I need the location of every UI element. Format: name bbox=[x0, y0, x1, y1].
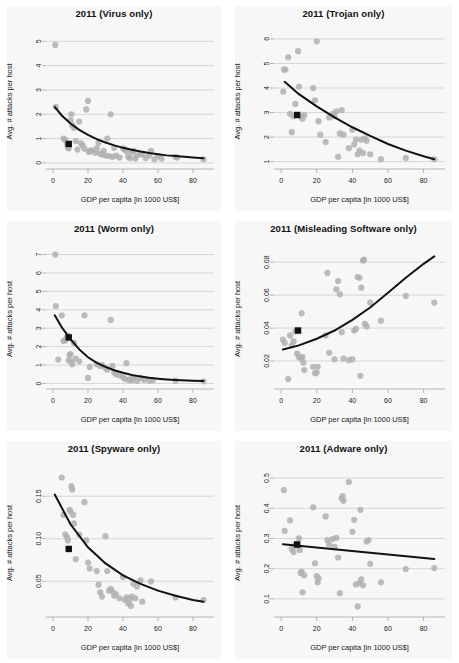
data-point bbox=[83, 106, 89, 112]
data-point bbox=[69, 361, 75, 367]
data-point bbox=[364, 323, 370, 329]
figure-panel-grid: 2011 (Virus only)012345020406080Avg. # a… bbox=[0, 0, 459, 663]
data-point bbox=[85, 559, 91, 565]
x-tick-label: 0 bbox=[279, 397, 283, 404]
fit-curve bbox=[283, 544, 434, 559]
panel-title: 2011 (Virus only) bbox=[0, 8, 228, 19]
data-point bbox=[295, 48, 301, 54]
x-axis-label: GDP per capita [in 1000 US$] bbox=[310, 195, 409, 204]
data-point bbox=[315, 575, 321, 581]
x-tick-label: 80 bbox=[189, 177, 197, 184]
data-point bbox=[378, 579, 384, 585]
data-point bbox=[123, 360, 129, 366]
y-tick-label: 0.10 bbox=[35, 532, 42, 546]
data-point bbox=[337, 590, 343, 596]
plot-area: 0.050.100.15020406080Avg. # attacks per … bbox=[0, 461, 228, 663]
y-tick-label: 2 bbox=[35, 112, 42, 116]
chart-panel-2: 2011 (Trojan only)123456020406080Avg. # … bbox=[228, 0, 459, 215]
data-point bbox=[53, 303, 59, 309]
y-tick-label: 0.08 bbox=[263, 255, 270, 269]
y-tick-label: 1 bbox=[35, 363, 42, 367]
data-point bbox=[310, 504, 316, 510]
data-point bbox=[108, 317, 114, 323]
plot-svg: 012345020406080Avg. # attacks per hostGD… bbox=[0, 26, 228, 215]
data-point bbox=[102, 533, 108, 539]
data-point bbox=[132, 595, 138, 601]
data-point bbox=[128, 603, 134, 609]
data-point bbox=[76, 118, 82, 124]
data-point bbox=[339, 329, 345, 335]
y-tick-label: 3 bbox=[35, 326, 42, 330]
data-point bbox=[346, 145, 352, 151]
data-point bbox=[94, 568, 100, 574]
x-tick-label: 60 bbox=[384, 625, 392, 632]
data-point bbox=[108, 111, 114, 117]
data-point bbox=[76, 358, 82, 364]
y-tick-label: 0 bbox=[35, 381, 42, 385]
data-point bbox=[340, 355, 346, 361]
x-tick-label: 40 bbox=[348, 625, 356, 632]
data-point bbox=[299, 310, 305, 316]
y-tick-label: 0.5 bbox=[263, 473, 270, 483]
data-point bbox=[81, 312, 87, 318]
y-axis-label: Avg. # attacks per host bbox=[233, 63, 242, 140]
y-tick-label: 4 bbox=[263, 86, 270, 90]
data-point bbox=[333, 108, 339, 114]
y-axis-label: Avg. # attacks per host bbox=[5, 504, 14, 581]
data-point bbox=[280, 89, 286, 95]
data-point bbox=[335, 154, 341, 160]
data-point bbox=[314, 369, 320, 375]
data-point bbox=[68, 111, 74, 117]
plot-area: 123456020406080Avg. # attacks per hostGD… bbox=[228, 26, 459, 215]
data-point bbox=[301, 367, 307, 373]
data-point bbox=[85, 98, 91, 104]
data-point bbox=[292, 101, 298, 107]
data-point bbox=[281, 487, 287, 493]
data-point bbox=[335, 278, 341, 284]
data-point bbox=[139, 599, 145, 605]
data-point bbox=[73, 556, 79, 562]
data-point bbox=[367, 151, 373, 157]
data-point bbox=[333, 535, 339, 541]
data-point bbox=[378, 318, 384, 324]
data-point bbox=[290, 338, 296, 344]
x-tick-label: 40 bbox=[119, 397, 127, 404]
data-point bbox=[364, 138, 370, 144]
x-tick-label: 40 bbox=[119, 177, 127, 184]
data-point bbox=[323, 513, 329, 519]
x-tick-label: 0 bbox=[279, 177, 283, 184]
data-point bbox=[403, 293, 409, 299]
data-point bbox=[282, 66, 288, 72]
x-tick-label: 0 bbox=[51, 397, 55, 404]
data-point bbox=[296, 84, 302, 90]
data-point bbox=[299, 354, 305, 360]
x-tick-label: 80 bbox=[420, 625, 428, 632]
y-tick-label: 4 bbox=[35, 308, 42, 312]
y-tick-label: 1 bbox=[35, 137, 42, 141]
data-point bbox=[346, 479, 352, 485]
x-tick-label: 20 bbox=[84, 397, 92, 404]
data-point bbox=[340, 132, 346, 138]
data-point bbox=[353, 326, 359, 332]
y-tick-label: 3 bbox=[263, 110, 270, 114]
data-point bbox=[339, 107, 345, 113]
panel-title: 2011 (Adware only) bbox=[228, 443, 459, 454]
x-axis-label: GDP per capita [in 1000 US$] bbox=[81, 643, 180, 652]
mean-marker bbox=[66, 141, 72, 147]
data-point bbox=[285, 54, 291, 60]
data-point bbox=[87, 364, 93, 370]
data-point bbox=[323, 139, 329, 145]
data-point bbox=[59, 312, 65, 318]
y-tick-label: 5 bbox=[35, 289, 42, 293]
plot-svg: 0.020.040.060.08020406080Avg. # attacks … bbox=[228, 241, 459, 435]
data-point bbox=[300, 360, 306, 366]
data-point bbox=[356, 275, 362, 281]
plot-svg: 0.10.20.30.40.5020406080Avg. # attacks p… bbox=[228, 461, 459, 663]
data-point bbox=[94, 145, 100, 151]
data-point bbox=[317, 132, 323, 138]
fit-curve bbox=[55, 315, 204, 381]
data-point bbox=[74, 146, 80, 152]
panel-title: 2011 (Worm only) bbox=[0, 223, 228, 234]
plot-area: 0.020.040.060.08020406080Avg. # attacks … bbox=[228, 241, 459, 435]
x-axis-label: GDP per capita [in 1000 US$] bbox=[310, 643, 409, 652]
